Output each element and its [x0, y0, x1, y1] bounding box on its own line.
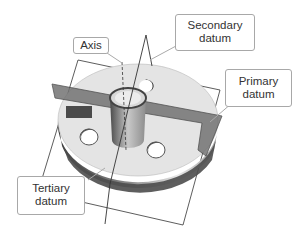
secondary-datum-label-line2: datum — [180, 32, 250, 45]
primary-datum-callout: Primary datum — [225, 69, 292, 107]
axis-label: Axis — [78, 39, 104, 52]
axis-callout: Axis — [73, 37, 109, 54]
primary-datum-label-line2: datum — [230, 88, 287, 101]
primary-datum-label-line1: Primary — [230, 75, 287, 88]
tertiary-datum-label-line2: datum — [22, 195, 80, 208]
secondary-datum-callout: Secondary datum — [175, 14, 255, 51]
tertiary-datum-callout: Tertiary datum — [17, 176, 85, 215]
secondary-datum-label-line1: Secondary — [180, 19, 250, 32]
tertiary-datum-label-line1: Tertiary — [22, 182, 80, 195]
